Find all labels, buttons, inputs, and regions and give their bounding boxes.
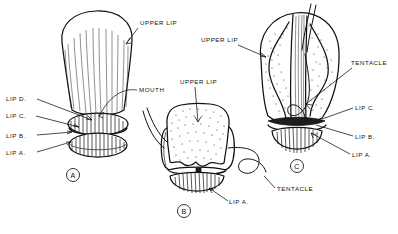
figure-a-label-mouth: MOUTH xyxy=(139,86,164,93)
figure-a-label-lip-a: LIP A. xyxy=(6,149,26,156)
figure-c-label-lip-c: LIP C. xyxy=(355,104,375,111)
figure-a-lip-ring-lower xyxy=(69,133,127,157)
figure-a-label-lip-c: LIP C. xyxy=(6,112,26,119)
figure-a-label-lip-d: LIP D. xyxy=(6,95,26,102)
figure-c-label-upper-lip: UPPER LIP xyxy=(201,36,238,43)
figure-b-marker-label: B xyxy=(182,208,187,215)
figure-a-body xyxy=(62,11,132,115)
figure-a-marker-label: A xyxy=(71,172,76,179)
figure-a-label-upper-lip: UPPER LIP xyxy=(140,19,177,26)
figure-b-label-tentacle: TENTACLE xyxy=(277,185,313,192)
figure-b-label-upper-lip: UPPER LIP xyxy=(180,78,217,85)
figure-c-marker-label: C xyxy=(294,163,299,170)
figure-c-label-lip-a: LIP A. xyxy=(352,151,372,158)
illustration-plate: A UPPER LIP MOUTH LIP D. LIP C. LIP B. L… xyxy=(0,0,398,234)
figure-c-label-tentacle: TENTACLE xyxy=(351,59,387,66)
figure-b-label-lip-a: LIP A. xyxy=(229,198,249,205)
figure-c-label-lip-b: LIP B. xyxy=(355,133,375,140)
figure-a-label-lip-b: LIP B. xyxy=(6,132,26,139)
figure-b-body xyxy=(167,103,229,166)
